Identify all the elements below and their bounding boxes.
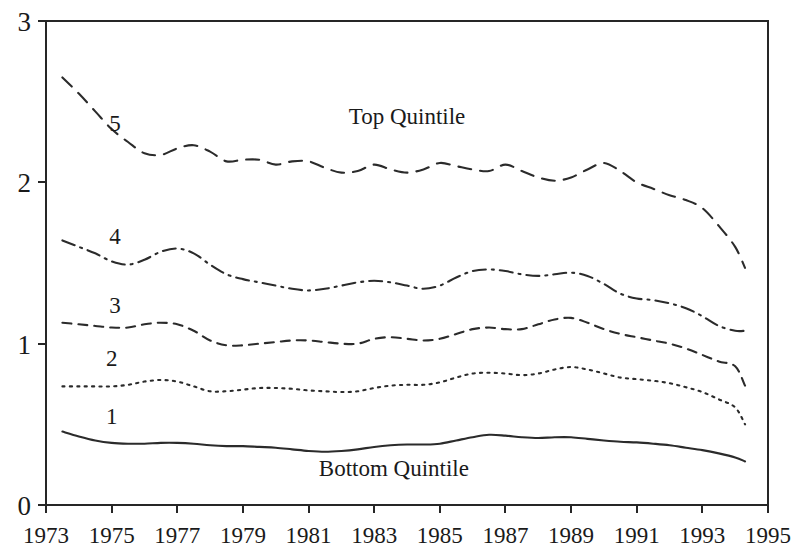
y-tick-label: 0 [18,491,32,521]
x-tick-label: 1973 [23,523,69,548]
y-tick-label: 3 [18,7,32,37]
line-chart: 0123 19731975197719791981198319851987198… [0,0,805,554]
annotation-group: Top QuintileBottom Quintile [319,104,469,481]
annotation-top-quintile: Top Quintile [349,104,466,129]
series-tag-3: 3 [109,293,121,318]
chart-container: 0123 19731975197719791981198319851987198… [0,0,805,554]
series-tag-5: 5 [109,111,121,136]
tick-mark-group [38,21,768,513]
series-tag-group: 54321 [106,111,121,430]
annotation-bottom-quintile: Bottom Quintile [319,456,469,481]
series-tag-1: 1 [106,404,118,429]
x-tick-label: 1983 [351,523,397,548]
x-tick-label: 1981 [286,523,332,548]
y-tick-label: 2 [18,168,32,198]
series-line-2 [62,367,745,424]
plot-border [46,21,768,505]
x-tick-label: 1979 [220,523,266,548]
x-tick-label: 1975 [89,523,135,548]
x-tick-label: 1995 [745,523,791,548]
x-tick-label: 1985 [417,523,463,548]
series-path-group [62,77,745,461]
y-tick-label: 1 [18,330,32,360]
x-tick-label: 1987 [482,523,528,548]
series-tag-2: 2 [106,346,118,371]
x-tick-label: 1977 [154,523,200,548]
x-tick-label: 1991 [614,523,660,548]
x-tick-label: 1993 [679,523,725,548]
series-line-4 [62,240,745,331]
axis-frame [46,21,768,505]
x-tick-label: 1989 [548,523,594,548]
x-tick-label-group: 1973197519771979198119831985198719891991… [23,523,791,548]
series-tag-4: 4 [109,224,121,249]
series-line-3 [62,318,745,386]
y-tick-label-group: 0123 [18,7,32,521]
